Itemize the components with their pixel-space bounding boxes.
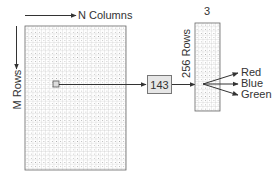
indexed-color-diagram: N Columns M Rows 143 3 256 Rows Red Blue… bbox=[0, 0, 278, 179]
selected-pixel bbox=[53, 81, 59, 87]
diagram-graphics bbox=[0, 0, 278, 179]
output-green-label: Green bbox=[241, 89, 272, 100]
color-table-columns-label: 3 bbox=[204, 6, 210, 17]
pixel-value-box: 143 bbox=[147, 75, 172, 94]
color-table-grid bbox=[195, 23, 220, 111]
pixel-value: 143 bbox=[150, 79, 168, 91]
m-rows-label: M Rows bbox=[12, 65, 23, 115]
color-table-rows-label: 256 Rows bbox=[181, 29, 192, 79]
n-columns-label: N Columns bbox=[78, 10, 132, 21]
image-pixel-grid bbox=[25, 26, 126, 170]
